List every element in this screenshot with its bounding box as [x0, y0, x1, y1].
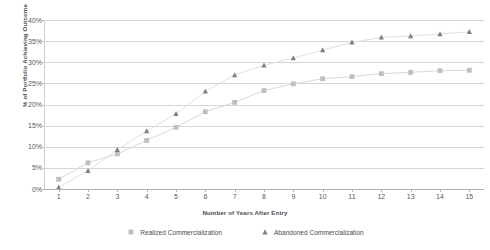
legend-item[interactable]: Abandoned Commercialization	[260, 228, 364, 236]
series-plot	[44, 20, 484, 189]
x-axis-tick-label: 7	[223, 193, 247, 200]
y-axis-tick-mark	[41, 41, 44, 42]
square-marker-icon	[115, 152, 120, 157]
x-axis-tick-mark	[147, 189, 148, 192]
x-axis-tick-label: 13	[399, 193, 423, 200]
square-marker-icon	[232, 100, 237, 105]
chart-legend: Realized CommercializationAbandoned Comm…	[0, 228, 490, 236]
y-axis-tick-label: 0%	[16, 186, 42, 193]
square-marker-icon	[438, 68, 443, 73]
x-axis-tick-label: 10	[311, 193, 335, 200]
x-axis-tick-mark	[59, 189, 60, 192]
y-axis-tick-mark	[41, 126, 44, 127]
x-axis-tick-mark	[293, 189, 294, 192]
x-axis-tick-mark	[381, 189, 382, 192]
x-axis-tick-mark	[176, 189, 177, 192]
x-axis-title: Number of Years After Entry	[0, 209, 490, 216]
series-line	[59, 70, 470, 179]
y-axis-tick-mark	[41, 20, 44, 21]
triangle-marker-icon	[260, 228, 270, 236]
y-axis-tick-mark	[41, 147, 44, 148]
y-axis-tick-mark	[41, 105, 44, 106]
x-axis-tick-label: 6	[193, 193, 217, 200]
series-triangle	[56, 29, 472, 189]
square-marker-icon	[86, 160, 91, 165]
x-axis-tick-labels: 123456789101112131415	[44, 193, 484, 205]
square-marker-icon	[144, 138, 149, 143]
x-axis-tick-label: 3	[105, 193, 129, 200]
x-axis-tick-mark	[235, 189, 236, 192]
x-axis-tick-mark	[205, 189, 206, 192]
square-marker-icon	[56, 177, 61, 182]
x-axis-tick-label: 15	[457, 193, 481, 200]
x-axis-tick-label: 11	[340, 193, 364, 200]
x-axis-tick-mark	[440, 189, 441, 192]
plot-area	[44, 20, 484, 189]
series-line	[59, 32, 470, 187]
triangle-marker-icon	[173, 111, 178, 116]
square-marker-icon	[467, 68, 472, 73]
square-marker-icon	[291, 81, 296, 86]
x-axis-tick-mark	[352, 189, 353, 192]
legend-item[interactable]: Realized Commercialization	[126, 228, 222, 236]
triangle-marker-icon	[115, 147, 120, 152]
y-axis-tick-label: 40%	[16, 17, 42, 24]
y-axis-tick-label: 35%	[16, 38, 42, 45]
x-axis-tick-mark	[323, 189, 324, 192]
x-axis-tick-label: 4	[135, 193, 159, 200]
legend-label: Abandoned Commercialization	[274, 229, 364, 236]
x-axis-tick-label: 12	[369, 193, 393, 200]
y-axis-tick-label: 30%	[16, 59, 42, 66]
square-marker-icon	[174, 125, 179, 130]
y-axis-tick-label: 20%	[16, 101, 42, 108]
square-marker-icon	[379, 71, 384, 76]
square-marker-icon	[203, 109, 208, 114]
triangle-marker-icon	[144, 128, 149, 133]
x-axis-tick-label: 1	[47, 193, 71, 200]
y-axis-tick-mark	[41, 83, 44, 84]
x-axis-tick-mark	[88, 189, 89, 192]
x-axis-tick-mark	[469, 189, 470, 192]
x-axis-tick-label: 5	[164, 193, 188, 200]
square-marker-icon	[320, 76, 325, 81]
x-axis-tick-label: 2	[76, 193, 100, 200]
x-axis-tick-label: 14	[428, 193, 452, 200]
x-axis-tick-mark	[117, 189, 118, 192]
triangle-marker-icon	[203, 89, 208, 94]
line-chart: % of Portfolio Achieving Outcome 0%5%10%…	[0, 0, 490, 250]
y-axis-tick-label: 15%	[16, 122, 42, 129]
x-axis-tick-label: 8	[252, 193, 276, 200]
x-axis-tick-label: 9	[281, 193, 305, 200]
legend-label: Realized Commercialization	[140, 229, 222, 236]
y-axis-tick-mark	[41, 62, 44, 63]
x-axis-tick-mark	[264, 189, 265, 192]
y-axis-tick-label: 5%	[16, 164, 42, 171]
square-marker-icon	[262, 88, 267, 93]
triangle-marker-icon	[85, 168, 90, 173]
square-marker-icon	[350, 74, 355, 79]
square-marker-icon	[408, 70, 413, 75]
x-axis-tick-mark	[411, 189, 412, 192]
y-axis-tick-mark	[41, 168, 44, 169]
y-axis-tick-label: 10%	[16, 143, 42, 150]
square-marker-icon	[126, 228, 136, 236]
y-axis-tick-label: 25%	[16, 80, 42, 87]
series-square	[56, 68, 471, 182]
y-axis-tick-mark	[41, 189, 44, 190]
